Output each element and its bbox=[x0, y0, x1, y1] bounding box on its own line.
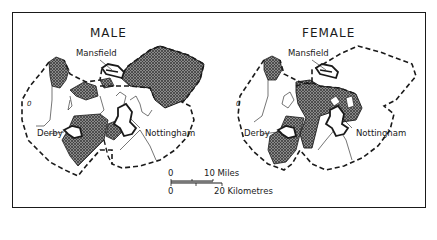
male-label-nottingham: Nottingham bbox=[145, 128, 195, 138]
female-hatched-northwest bbox=[264, 56, 282, 80]
female-hatched-centre bbox=[296, 80, 362, 148]
female-label-mansfield: Mansfield bbox=[288, 48, 329, 58]
female-label-nottingham: Nottingham bbox=[356, 128, 406, 138]
male-label-mansfield: Mansfield bbox=[76, 48, 117, 58]
female-map bbox=[238, 46, 416, 170]
male-label-derby: Derby bbox=[37, 128, 63, 138]
female-hatched-south bbox=[268, 116, 304, 164]
male-map-title: MALE bbox=[90, 26, 127, 40]
male-hatched-northeast bbox=[120, 46, 204, 108]
scale-miles-label: 10 Miles bbox=[204, 168, 239, 178]
male-map bbox=[22, 46, 204, 176]
male-symbol: 0 bbox=[27, 100, 31, 108]
scale-km-label: 20 Kilometres bbox=[214, 186, 273, 196]
female-symbol: 0 bbox=[236, 100, 240, 108]
male-hatched-centre bbox=[70, 82, 98, 100]
female-map-title: FEMALE bbox=[302, 26, 355, 40]
scale-miles-zero: 0 bbox=[168, 168, 173, 178]
female-label-derby: Derby bbox=[244, 128, 270, 138]
male-hatched-northwest bbox=[49, 57, 69, 88]
scale-km-zero: 0 bbox=[168, 186, 173, 196]
scale-bar bbox=[171, 179, 222, 186]
male-hatched-south bbox=[62, 114, 108, 166]
